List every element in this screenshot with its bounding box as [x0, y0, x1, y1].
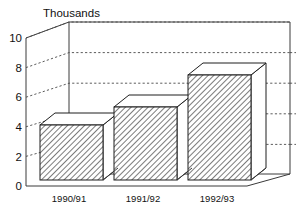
bar-group-1990-91[interactable] [40, 113, 118, 180]
bar-group-1992-93[interactable] [188, 63, 266, 180]
x-category-label-1990-91: 1990/91 [52, 193, 86, 204]
y-tick-label-4: 4 [16, 121, 23, 133]
y-tick-label-10: 10 [9, 32, 22, 44]
y-tick-label-8: 8 [16, 62, 22, 74]
bar-front-1990-91[interactable] [40, 125, 103, 180]
bar-front-1992-93[interactable] [188, 75, 251, 180]
bar-group-1991-92[interactable] [114, 95, 192, 180]
chart-container: Thousands 10 8 6 4 2 0 1990/91 1991/92 1… [0, 0, 296, 216]
chart-title: Thousands [43, 7, 100, 19]
y-tick-label-6: 6 [16, 91, 22, 103]
x-category-label-1991-92: 1991/92 [126, 193, 160, 204]
y-tick-label-2: 2 [16, 151, 22, 163]
x-category-label-1992-93: 1992/93 [200, 193, 234, 204]
right-edge-ticks [290, 53, 296, 145]
bar-side-1992-93 [251, 63, 266, 180]
bar-front-1991-92[interactable] [114, 107, 177, 180]
y-tick-label-0: 0 [16, 180, 22, 192]
bar-chart: Thousands 10 8 6 4 2 0 1990/91 1991/92 1… [0, 0, 296, 216]
